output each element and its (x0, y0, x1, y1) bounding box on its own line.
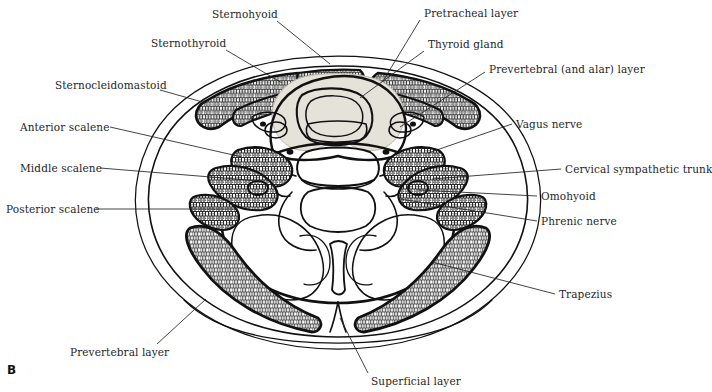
leader-sternothyroid (226, 50, 282, 83)
label-trapezius: Trapezius (559, 288, 612, 300)
leader-anterior-scalene (110, 127, 242, 157)
label-phrenic-nerve: Phrenic nerve (541, 215, 617, 227)
vagus-nerve-marker-left (260, 121, 266, 126)
label-prevertebral-and-alar-layer: Prevertebral (and alar) layer (489, 63, 645, 75)
label-sternohyoid: Sternohyoid (212, 8, 278, 20)
figure-letter: B (7, 363, 16, 377)
label-sternocleidomastoid: Sternocleidomastoid (55, 79, 167, 91)
label-omohyoid: Omohyoid (541, 190, 596, 202)
leader-prevertebral-layer (157, 299, 206, 344)
label-posterior-scalene: Posterior scalene (6, 203, 100, 215)
label-thyroid-gland: Thyroid gland (428, 38, 504, 50)
label-middle-scalene: Middle scalene (20, 162, 102, 174)
vagus-nerve-marker-right (410, 121, 416, 126)
label-prevertebral-layer: Prevertebral layer (70, 346, 169, 358)
scalene-muscles-left (190, 147, 292, 230)
scalene-muscles-right (384, 147, 486, 230)
label-sternothyroid: Sternothyroid (151, 37, 226, 49)
label-cervical-sympathetic-trunk: Cervical sympathetic trunk (565, 163, 712, 175)
label-pretracheal-layer: Pretracheal layer (424, 7, 518, 19)
label-superficial-layer: Superficial layer (371, 375, 461, 387)
label-anterior-scalene: Anterior scalene (20, 121, 110, 133)
nuchal-midline (330, 302, 346, 332)
label-vagus-nerve: Vagus nerve (516, 118, 582, 130)
